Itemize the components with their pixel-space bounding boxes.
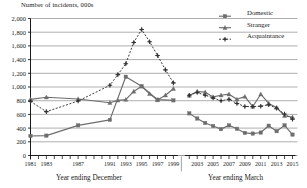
legend-swatch-stranger: [219, 26, 231, 30]
chart-container: Number of incidents, 000s Year ending De…: [0, 0, 307, 188]
legend-swatch-acquaintance: [219, 37, 231, 42]
series-stranger: [28, 84, 294, 119]
legend-swatch-domestic: [219, 15, 231, 18]
plot-area: [0, 0, 307, 188]
series-acquaintance: [28, 27, 295, 121]
